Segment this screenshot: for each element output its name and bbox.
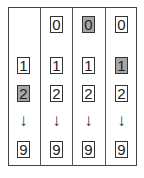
digit-cell-9: 9 xyxy=(82,141,95,158)
column-divider xyxy=(40,7,41,166)
digit-cell-9: 9 xyxy=(115,141,128,158)
column-divider xyxy=(72,7,73,166)
digit-cell-2: 2 xyxy=(82,85,95,102)
digit-cell-2: 2 xyxy=(50,85,63,102)
digit-cell-0-highlighted: 0 xyxy=(82,16,95,33)
down-arrow-icon: ↓ xyxy=(115,112,128,130)
digit-cell-0: 0 xyxy=(50,16,63,33)
digit-cell-1: 1 xyxy=(50,57,63,74)
digit-cell-2: 2 xyxy=(115,85,128,102)
down-arrow-icon: ↓ xyxy=(50,112,63,130)
digit-cell-9: 9 xyxy=(50,141,63,158)
down-arrow-icon: ↓ xyxy=(82,112,95,130)
digit-cell-9: 9 xyxy=(17,141,30,158)
digit-cell-0: 0 xyxy=(115,16,128,33)
column-divider xyxy=(105,7,106,166)
digit-cell-1: 1 xyxy=(82,57,95,74)
down-arrow-icon: ↓ xyxy=(17,112,30,130)
digit-cell-1-highlighted: 1 xyxy=(115,57,128,74)
digit-cell-1: 1 xyxy=(17,57,30,74)
digit-cell-2-highlighted: 2 xyxy=(17,85,30,102)
